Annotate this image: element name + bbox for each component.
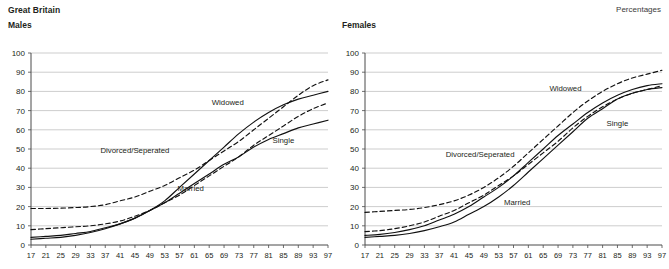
x-axis-tick-label: 25	[391, 251, 399, 260]
panel-title-females: Females	[342, 20, 376, 30]
x-axis-tick-label: 29	[405, 251, 413, 260]
x-axis-tick-label: 81	[264, 251, 272, 260]
x-axis-tick-label: 29	[71, 251, 79, 260]
series-label-widowed: Widowed	[549, 84, 581, 93]
x-axis-tick-label: 49	[480, 251, 488, 260]
y-axis-tick-label: 40	[16, 164, 25, 173]
y-axis-tick-label: 80	[16, 87, 25, 96]
series-line-single	[365, 84, 662, 236]
x-axis-tick-label: 65	[539, 251, 547, 260]
x-axis-tick-label: 81	[598, 251, 606, 260]
x-axis-tick-label: 93	[643, 251, 651, 260]
x-axis-tick-label: 17	[27, 251, 35, 260]
y-axis-tick-label: 60	[16, 126, 25, 135]
x-axis-tick-label: 41	[450, 251, 458, 260]
y-axis-tick-label: 50	[16, 145, 25, 154]
y-axis-tick-label: 10	[16, 222, 25, 231]
x-axis-tick-label: 33	[86, 251, 94, 260]
line-chart-males: 0102030405060708090100172125293337414549…	[0, 32, 334, 269]
x-axis-tick-label: 57	[509, 251, 517, 260]
x-axis-tick-label: 53	[160, 251, 168, 260]
x-axis-tick-label: 61	[190, 251, 198, 260]
y-axis-tick-label: 70	[16, 107, 25, 116]
x-axis-tick-label: 45	[465, 251, 473, 260]
y-axis-tick-label: 80	[350, 87, 359, 96]
y-axis-tick-label: 30	[16, 183, 25, 192]
panel-title-males: Males	[8, 20, 32, 30]
x-axis-tick-label: 93	[309, 251, 317, 260]
y-axis-tick-label: 50	[350, 145, 359, 154]
y-axis-tick-label: 10	[350, 222, 359, 231]
x-axis-tick-label: 89	[294, 251, 302, 260]
y-axis-tick-label: 20	[350, 203, 359, 212]
x-axis-tick-label: 89	[628, 251, 636, 260]
x-axis-tick-label: 21	[376, 251, 384, 260]
y-axis-tick-label: 90	[16, 68, 25, 77]
series-label-married: Married	[177, 184, 203, 193]
x-axis-tick-label: 37	[435, 251, 443, 260]
x-axis-tick-label: 97	[324, 251, 332, 260]
x-axis-tick-label: 17	[361, 251, 369, 260]
x-axis-tick-label: 65	[205, 251, 213, 260]
series-line-married	[31, 91, 328, 239]
units-label: Percentages	[616, 5, 661, 14]
x-axis-tick-label: 33	[420, 251, 428, 260]
x-axis-tick-label: 73	[569, 251, 577, 260]
y-axis-tick-label: 70	[350, 107, 359, 116]
x-axis-tick-label: 53	[494, 251, 502, 260]
series-label-single: Single	[607, 119, 629, 128]
y-axis-tick-label: 20	[16, 203, 25, 212]
x-axis-tick-label: 73	[235, 251, 243, 260]
chart-page: Great Britain Percentages Males 01020304…	[0, 0, 669, 269]
series-line-married	[365, 88, 662, 238]
x-axis-tick-label: 69	[220, 251, 228, 260]
chart-panel-females: Females 01020304050607080901001721252933…	[334, 20, 668, 269]
y-axis-tick-label: 100	[346, 49, 360, 58]
x-axis-tick-label: 49	[146, 251, 154, 260]
y-axis-tick-label: 40	[350, 164, 359, 173]
x-axis-tick-label: 25	[57, 251, 65, 260]
x-axis-tick-label: 97	[658, 251, 666, 260]
series-label-divorced-seperated: Divorced/Seperated	[446, 150, 515, 159]
x-axis-tick-label: 57	[175, 251, 183, 260]
y-axis-tick-label: 100	[12, 49, 26, 58]
y-axis-tick-label: 60	[350, 126, 359, 135]
series-label-married: Married	[504, 198, 530, 207]
x-axis-tick-label: 77	[584, 251, 592, 260]
series-label-single: Single	[273, 136, 295, 145]
chart-panel-males: Males 0102030405060708090100172125293337…	[0, 20, 334, 269]
x-axis-tick-label: 69	[554, 251, 562, 260]
y-axis-tick-label: 0	[355, 241, 360, 250]
line-chart-females: 0102030405060708090100172125293337414549…	[334, 32, 668, 269]
region-label: Great Britain	[8, 5, 60, 15]
y-axis-tick-label: 0	[21, 241, 26, 250]
x-axis-tick-label: 37	[101, 251, 109, 260]
series-line-divorced-seperated	[31, 103, 328, 230]
series-label-widowed: Widowed	[212, 98, 244, 107]
y-axis-tick-label: 30	[350, 183, 359, 192]
y-axis-tick-label: 90	[350, 68, 359, 77]
x-axis-tick-label: 85	[279, 251, 287, 260]
x-axis-tick-label: 85	[613, 251, 621, 260]
x-axis-tick-label: 21	[42, 251, 50, 260]
x-axis-tick-label: 61	[524, 251, 532, 260]
x-axis-tick-label: 45	[131, 251, 139, 260]
x-axis-tick-label: 77	[250, 251, 258, 260]
x-axis-tick-label: 41	[116, 251, 124, 260]
series-label-divorced-seperated: Divorced/Seperated	[100, 146, 169, 155]
